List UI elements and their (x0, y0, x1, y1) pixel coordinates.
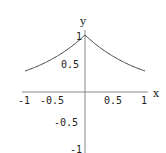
y-tick-0.5: 0.5 (61, 59, 79, 70)
y-axis-label: y (79, 15, 87, 28)
y-tick-1: 1 (76, 31, 82, 42)
x-tick-1: 1 (141, 95, 147, 106)
chart: y x 1 0.5 -0.5 -1 -1 -0.5 0.5 1 (0, 0, 166, 153)
y-tick-neg-1: -1 (70, 144, 82, 153)
y-tick-neg-0.5: -0.5 (54, 117, 78, 128)
x-tick-neg-1: -1 (18, 95, 30, 106)
x-tick-0.5: 0.5 (104, 95, 122, 106)
x-axis-label: x (153, 87, 160, 100)
x-tick-neg-0.5: -0.5 (40, 95, 64, 106)
